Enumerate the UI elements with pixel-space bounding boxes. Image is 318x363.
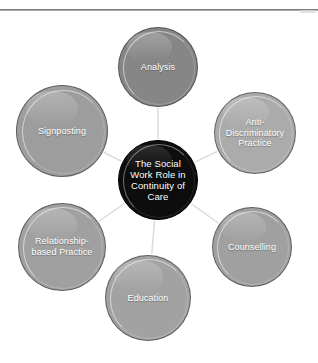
connector-education bbox=[152, 221, 155, 254]
page-header-rule bbox=[0, 9, 318, 11]
node-label-relationship-based-practice: Relationship-based Practice bbox=[26, 236, 99, 257]
node-education[interactable]: Education bbox=[105, 255, 191, 341]
social-work-role-diagram: AnalysisAnti-DiscriminatoryPracticeCouns… bbox=[0, 12, 318, 363]
node-label-education: Education bbox=[122, 293, 175, 304]
node-counselling[interactable]: Counselling bbox=[212, 207, 292, 287]
node-label-anti-discriminatory-practice: Anti-DiscriminatoryPractice bbox=[220, 117, 290, 149]
node-analysis[interactable]: Analysis bbox=[118, 27, 198, 107]
node-signposting[interactable]: Signposting bbox=[16, 85, 108, 177]
diagram-page: AnalysisAnti-DiscriminatoryPracticeCouns… bbox=[0, 0, 318, 363]
connector-counselling bbox=[191, 204, 218, 223]
node-label-signposting: Signposting bbox=[32, 126, 92, 137]
node-label-analysis: Analysis bbox=[135, 62, 181, 73]
connector-signposting bbox=[104, 152, 122, 161]
node-label-counselling: Counselling bbox=[222, 242, 282, 253]
node-relationship-based-practice[interactable]: Relationship-based Practice bbox=[18, 203, 106, 291]
connector-anti-discriminatory-practice bbox=[195, 151, 217, 162]
node-label-center: The SocialWork Role inContinuity ofCare bbox=[124, 158, 191, 203]
node-center[interactable]: The SocialWork Role inContinuity ofCare bbox=[118, 140, 198, 220]
node-anti-discriminatory-practice[interactable]: Anti-DiscriminatoryPractice bbox=[214, 92, 296, 174]
connector-relationship-based-practice bbox=[99, 203, 124, 221]
